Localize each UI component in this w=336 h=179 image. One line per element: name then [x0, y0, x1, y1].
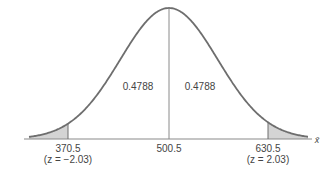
right-cut-z: (z = 2.03): [247, 154, 290, 165]
axis-label-xbar: x̄: [314, 135, 320, 145]
mean-value: 500.5: [156, 143, 181, 154]
right-cut-value: 630.5: [255, 143, 280, 154]
left-cut-z: (z = −2.03): [44, 154, 92, 165]
left-cut-value: 370.5: [55, 143, 80, 154]
left-area-label: 0.4788: [123, 81, 154, 92]
right-area-label: 0.4788: [185, 81, 216, 92]
normal-distribution-diagram: 0.4788 0.4788 370.5 (z = −2.03) 500.5 63…: [0, 0, 336, 179]
